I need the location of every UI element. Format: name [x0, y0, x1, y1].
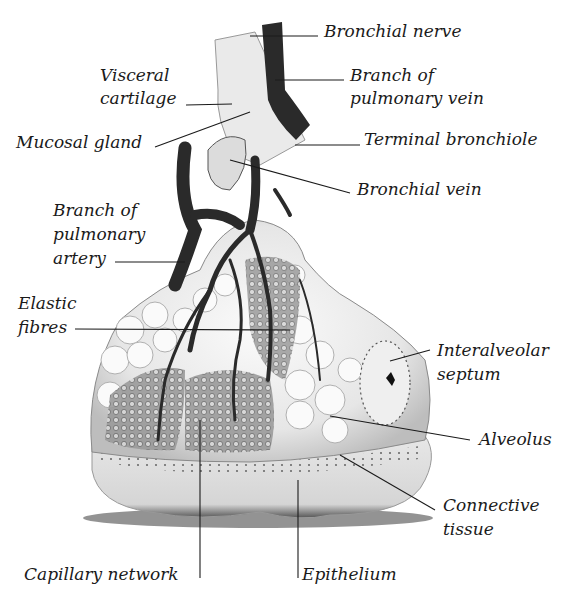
- label-visceral-cartilage-line1: Visceral: [100, 66, 169, 85]
- interalveolar-septum-ring: [360, 341, 410, 425]
- label-capillary-network: Capillary network: [24, 565, 179, 584]
- label-interalveolar-septum-line1: Interalveolar: [437, 341, 549, 360]
- lung-lobule-diagram: Bronchial nerve Visceral cartilage Branc…: [0, 0, 568, 598]
- label-visceral-cartilage-line2: cartilage: [100, 89, 177, 108]
- label-branch-pulmonary-artery-line2: pulmonary: [53, 225, 145, 244]
- label-branch-pulmonary-vein-line2: pulmonary vein: [350, 89, 484, 108]
- label-bronchial-nerve: Bronchial nerve: [324, 22, 462, 41]
- label-elastic-fibres-line1: Elastic: [18, 294, 77, 313]
- capillary-network-center: [185, 370, 274, 453]
- label-branch-pulmonary-vein-line1: Branch of: [350, 66, 434, 85]
- label-connective-tissue-line1: Connective: [443, 496, 540, 515]
- label-connective-tissue-line2: tissue: [443, 520, 494, 539]
- label-bronchial-vein: Bronchial vein: [357, 180, 482, 199]
- label-branch-pulmonary-artery-line1: Branch of: [53, 201, 137, 220]
- label-interalveolar-septum-line2: septum: [437, 365, 501, 384]
- label-branch-pulmonary-artery-line3: artery: [53, 249, 106, 268]
- label-terminal-bronchiole: Terminal bronchiole: [364, 130, 538, 149]
- label-mucosal-gland: Mucosal gland: [16, 133, 142, 152]
- label-epithelium: Epithelium: [302, 565, 397, 584]
- label-elastic-fibres-line2: fibres: [18, 318, 67, 337]
- label-alveolus: Alveolus: [479, 430, 552, 449]
